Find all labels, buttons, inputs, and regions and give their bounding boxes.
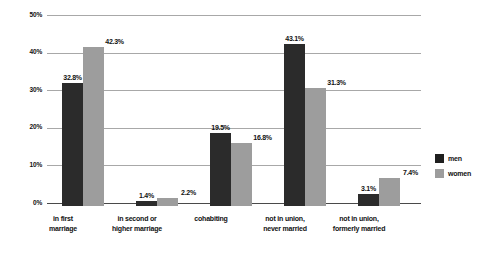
y-tick-label: 0%: [2, 200, 42, 207]
bar-group: 19.5% 16.8%: [210, 12, 252, 206]
bar-group: 32.8% 42.3%: [62, 12, 104, 206]
bar-women[interactable]: 2.2%: [157, 198, 178, 206]
bar-men[interactable]: 3.1%: [358, 194, 379, 206]
legend-label-men: men: [448, 155, 462, 162]
y-tick-label: 50%: [2, 12, 42, 19]
bar-value-women: 7.4%: [391, 169, 431, 176]
legend-item-men[interactable]: men: [435, 152, 471, 164]
bar-women[interactable]: 16.8%: [231, 143, 252, 206]
category-label-line: formerly married: [311, 224, 407, 234]
chart-legend: men women: [435, 152, 471, 182]
bar-men[interactable]: 32.8%: [62, 83, 83, 206]
bar-women[interactable]: 31.3%: [305, 88, 326, 206]
bar-women[interactable]: 7.4%: [379, 178, 400, 206]
bar-value-women: 31.3%: [317, 79, 357, 86]
bar-women[interactable]: 42.3%: [83, 47, 104, 206]
y-tick-label: 20%: [2, 124, 42, 131]
category-label-line: higher marriage: [89, 224, 185, 234]
plot-area: 32.8% 42.3% 1.4% 2.2% 19.5% 16.8%: [47, 12, 421, 206]
category-label-not-in-union-formerly-married: not in union, formerly married: [311, 214, 407, 233]
bar-group: 3.1% 7.4%: [358, 12, 400, 206]
legend-swatch-men-icon: [435, 154, 444, 163]
y-tick-label: 30%: [2, 87, 42, 94]
legend-swatch-women-icon: [435, 169, 444, 178]
bar-value-men: 19.5%: [201, 124, 241, 131]
bar-men[interactable]: 19.5%: [210, 133, 231, 206]
category-label-line: not in union,: [311, 214, 407, 224]
bar-value-women: 2.2%: [169, 189, 209, 196]
bar-value-women: 42.3%: [95, 38, 135, 45]
bar-men[interactable]: 1.4%: [136, 201, 157, 206]
bar-men[interactable]: 43.1%: [284, 44, 305, 206]
legend-item-women[interactable]: women: [435, 167, 471, 179]
y-tick-label: 10%: [2, 162, 42, 169]
bar-value-women: 16.8%: [243, 134, 283, 141]
y-tick-label: 40%: [2, 49, 42, 56]
bar-group: 43.1% 31.3%: [284, 12, 326, 206]
legend-label-women: women: [448, 170, 471, 177]
bar-group: 1.4% 2.2%: [136, 12, 178, 206]
bar-value-men: 43.1%: [275, 35, 315, 42]
grouped-bar-chart: 50% 40% 30% 20% 10% 0% 32.8% 42.3% 1.4%: [0, 0, 493, 263]
